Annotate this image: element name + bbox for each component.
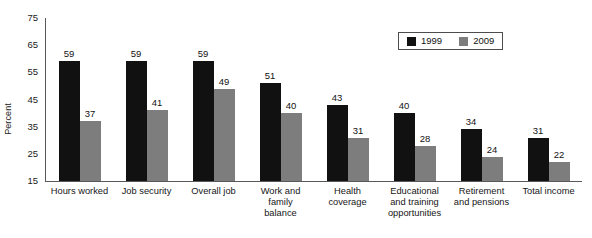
y-tick-label: 15 [16,176,38,186]
category-label-line: Retirement [443,186,520,197]
bar-2009 [147,110,168,181]
category-label-line: coverage [309,197,386,208]
bar-2009 [549,162,570,181]
category-label: Educationaland trainingopportunities [376,186,453,220]
legend-swatch-icon [459,37,468,46]
bar-2009 [415,146,436,181]
legend-label: 2009 [473,36,494,46]
category-label-line: Educational [376,186,453,197]
bar-value-label: 34 [455,117,488,127]
bar-chart: Percent 75655545352515 59375941594951404… [0,0,592,238]
bar-1999 [260,83,281,181]
bar-2009 [80,121,101,181]
bar-value-label: 37 [74,109,107,119]
category-label-line: Overall job [175,186,252,197]
category-label: Overall job [175,186,252,197]
y-tick-label: 75 [16,13,38,23]
bar-value-label: 40 [275,101,308,111]
bar-value-label: 41 [141,98,174,108]
bar-2009 [281,113,302,181]
y-tick-label: 65 [16,40,38,50]
bar-1999 [394,113,415,181]
category-label-line: Work and [242,186,319,197]
bar-value-label: 31 [342,126,375,136]
category-label-line: Hours worked [41,186,118,197]
bar-value-label: 28 [409,134,442,144]
category-label-line: family [242,197,319,208]
bar-2009 [482,157,503,181]
bar-group: 5140 [247,18,314,181]
bar-group: 3122 [515,18,582,181]
x-axis-category-labels: Hours workedJob securityOverall jobWork … [46,186,582,236]
bar-1999 [327,105,348,181]
y-tick-label: 55 [16,67,38,77]
category-label-line: and pensions [443,197,520,208]
category-label: Healthcoverage [309,186,386,208]
bar-2009 [214,89,235,181]
legend-swatch-icon [407,37,416,46]
category-label-line: opportunities [376,208,453,219]
legend-label: 1999 [421,36,442,46]
bar-value-label: 43 [321,93,354,103]
category-label: Job security [108,186,185,197]
bar-value-label: 59 [120,49,153,59]
category-label-line: and training [376,197,453,208]
bar-value-label: 59 [187,49,220,59]
category-label-line: balance [242,208,319,219]
bar-value-label: 49 [208,77,241,87]
y-tick-label: 45 [16,95,38,105]
category-label: Hours worked [41,186,118,197]
y-tick-label: 25 [16,149,38,159]
category-label: Retirementand pensions [443,186,520,208]
bar-group: 4331 [314,18,381,181]
y-tick-label: 35 [16,122,38,132]
bar-1999 [126,61,147,181]
bar-1999 [461,129,482,181]
y-axis-tick-labels: 75655545352515 [14,0,38,238]
legend-item-1999: 1999 [407,36,442,46]
category-label-line: Health [309,186,386,197]
bar-group: 5949 [180,18,247,181]
bar-value-label: 40 [388,101,421,111]
category-label: Total income [510,186,587,197]
chart-legend: 19992009 [398,32,503,50]
bar-2009 [348,138,369,181]
bar-value-label: 31 [522,126,555,136]
bar-value-label: 24 [476,145,509,155]
bar-value-label: 22 [543,150,576,160]
category-label-line: Job security [108,186,185,197]
bar-value-label: 59 [53,49,86,59]
bar-group: 5937 [46,18,113,181]
category-label-line: Total income [510,186,587,197]
bar-1999 [59,61,80,181]
bar-group: 5941 [113,18,180,181]
category-label: Work andfamilybalance [242,186,319,220]
x-axis-line [45,181,582,182]
bar-value-label: 51 [254,71,287,81]
legend-item-2009: 2009 [459,36,494,46]
